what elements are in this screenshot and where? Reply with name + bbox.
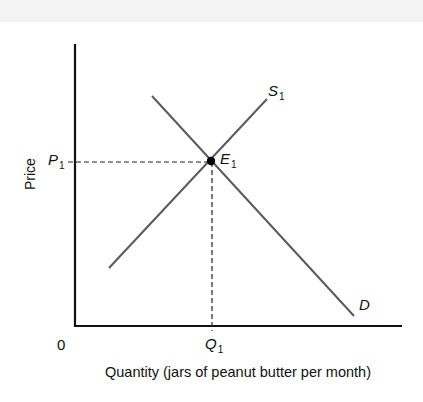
quantity-q1-label: Q1 bbox=[205, 336, 223, 351]
supply-label-sub: 1 bbox=[279, 91, 285, 102]
quantity-q1-main: Q bbox=[205, 335, 217, 352]
price-p1-main: P bbox=[48, 151, 58, 168]
supply-label-main: S bbox=[268, 82, 278, 99]
x-axis-label: Quantity (jars of peanut butter per mont… bbox=[105, 364, 371, 380]
equilibrium-point bbox=[207, 157, 215, 165]
demand-label: D bbox=[359, 297, 370, 312]
origin-label: 0 bbox=[57, 337, 65, 352]
supply-curve bbox=[109, 99, 267, 268]
price-p1-sub: 1 bbox=[59, 160, 65, 171]
demand-label-main: D bbox=[359, 296, 370, 313]
price-p1-label: P1 bbox=[48, 152, 65, 167]
equilibrium-label-main: E bbox=[220, 150, 230, 167]
equilibrium-label: E1 bbox=[220, 151, 237, 166]
y-axis-label: Price bbox=[22, 158, 38, 190]
equilibrium-label-sub: 1 bbox=[231, 159, 237, 170]
supply-label: S1 bbox=[268, 83, 285, 98]
quantity-q1-sub: 1 bbox=[218, 344, 224, 355]
demand-curve bbox=[152, 96, 354, 316]
